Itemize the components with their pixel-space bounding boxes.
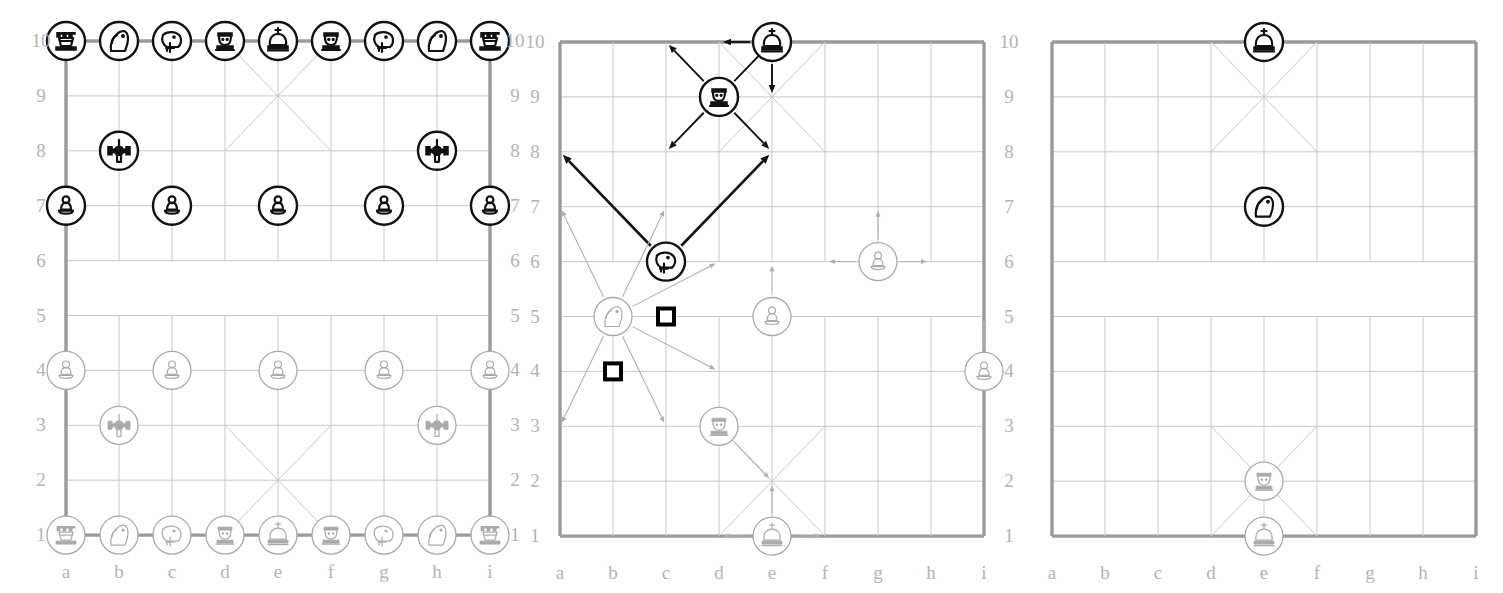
grid-lines (66, 41, 490, 535)
rank-label-left-5: 5 (522, 307, 548, 326)
rank-label-left-10: 10 (522, 32, 548, 51)
move-arrows (562, 39, 987, 539)
file-label-f: f (318, 562, 344, 581)
file-label-c: c (1145, 563, 1171, 582)
file-label-e: e (1251, 563, 1277, 582)
rank-label-left-9: 9 (522, 87, 548, 106)
rank-label-left-4: 4 (522, 361, 548, 380)
rank-label-left-3: 3 (522, 416, 548, 435)
rank-label-left-2: 2 (28, 470, 54, 489)
initial-position-board (20, 0, 536, 581)
file-label-b: b (600, 563, 626, 582)
file-label-i: i (1463, 563, 1489, 582)
file-label-b: b (106, 562, 132, 581)
file-label-a: a (1039, 563, 1065, 582)
file-label-i: i (477, 562, 503, 581)
rank-label-left-3: 3 (28, 415, 54, 434)
xiangqi-figure: 1010998877665544332211abcdefghi (0, 0, 1503, 593)
file-label-f: f (812, 563, 838, 582)
file-label-h: h (1410, 563, 1436, 582)
board-canvas-2 (1006, 0, 1503, 582)
file-label-e: e (759, 563, 785, 582)
file-label-d: d (1198, 563, 1224, 582)
rank-label-left-1: 1 (522, 526, 548, 545)
rank-label-left-6: 6 (522, 252, 548, 271)
file-label-h: h (424, 562, 450, 581)
file-label-d: d (706, 563, 732, 582)
file-label-g: g (371, 562, 397, 581)
file-label-i: i (971, 563, 997, 582)
rank-label-left-8: 8 (28, 141, 54, 160)
file-label-a: a (547, 563, 573, 582)
rank-label-left-1: 1 (28, 525, 54, 544)
file-label-h: h (918, 563, 944, 582)
rank-label-left-5: 5 (28, 306, 54, 325)
board-canvas-0 (20, 0, 536, 581)
file-label-d: d (212, 562, 238, 581)
rank-label-left-2: 2 (522, 471, 548, 490)
rank-label-left-7: 7 (522, 197, 548, 216)
file-label-f: f (1304, 563, 1330, 582)
rank-label-left-8: 8 (522, 142, 548, 161)
file-label-c: c (159, 562, 185, 581)
rank-label-left-6: 6 (28, 251, 54, 270)
rank-label-left-10: 10 (28, 31, 54, 50)
move-legality-board (514, 0, 1030, 582)
file-label-g: g (865, 563, 891, 582)
file-label-b: b (1092, 563, 1118, 582)
file-label-c: c (653, 563, 679, 582)
file-label-g: g (1357, 563, 1383, 582)
board-canvas-1 (514, 0, 1030, 582)
rank-label-left-4: 4 (28, 360, 54, 379)
pieces (594, 23, 1003, 555)
file-label-e: e (265, 562, 291, 581)
file-label-a: a (53, 562, 79, 581)
rank-label-left-9: 9 (28, 86, 54, 105)
endgame-position-board (1006, 0, 1503, 582)
rank-label-left-7: 7 (28, 196, 54, 215)
